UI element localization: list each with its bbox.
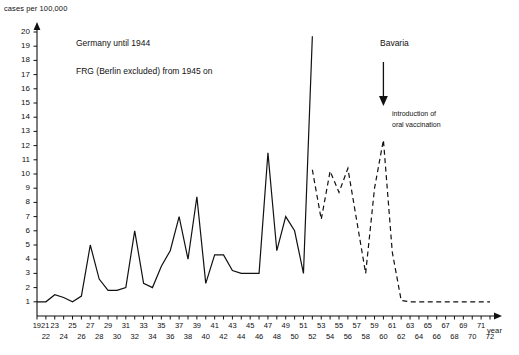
x-tick-label: 49 <box>278 321 294 330</box>
x-tick-label: 53 <box>313 321 329 330</box>
x-tick-label: 38 <box>180 332 196 341</box>
x-tick-label: 42 <box>216 332 232 341</box>
x-tick-label: 65 <box>420 321 436 330</box>
x-tick-label: 63 <box>402 321 418 330</box>
x-tick-label: 69 <box>455 321 471 330</box>
y-tick-label: 10 <box>16 169 30 178</box>
y-tick-label: 1 <box>16 297 30 306</box>
x-tick-label: 67 <box>438 321 454 330</box>
x-tick-label: 22 <box>38 332 54 341</box>
x-tick-label: 24 <box>56 332 72 341</box>
x-tick-label: 31 <box>118 321 134 330</box>
x-tick-label: 68 <box>446 332 462 341</box>
y-tick-label: 6 <box>16 226 30 235</box>
x-tick-label: 27 <box>82 321 98 330</box>
x-tick-label: 23 <box>47 321 63 330</box>
x-tick-label: 61 <box>384 321 400 330</box>
x-tick-label: 39 <box>189 321 205 330</box>
x-tick-label: 60 <box>375 332 391 341</box>
y-tick-label: 11 <box>16 155 30 164</box>
x-tick-label: 43 <box>224 321 240 330</box>
x-tick-label: 50 <box>287 332 303 341</box>
x-tick-label: 58 <box>358 332 374 341</box>
y-tick-label: 2 <box>16 283 30 292</box>
y-tick-label: 20 <box>16 27 30 36</box>
x-tick-label: 48 <box>269 332 285 341</box>
x-tick-label: 44 <box>233 332 249 341</box>
x-tick-label: 30 <box>109 332 125 341</box>
series-solid <box>37 36 312 302</box>
y-tick-label: 19 <box>16 41 30 50</box>
x-tick-label: 71 <box>473 321 489 330</box>
series-dashed <box>312 140 490 302</box>
y-tick-label: 18 <box>16 55 30 64</box>
x-tick-label: 45 <box>242 321 258 330</box>
vaccination-arrow <box>379 62 388 106</box>
x-tick-label: 29 <box>100 321 116 330</box>
x-tick-label: 51 <box>295 321 311 330</box>
x-tick-label: 25 <box>65 321 81 330</box>
x-tick-label: 55 <box>331 321 347 330</box>
y-tick-label: 14 <box>16 112 30 121</box>
x-tick-label: 34 <box>144 332 160 341</box>
x-tick-label: 66 <box>429 332 445 341</box>
y-tick-label: 9 <box>16 183 30 192</box>
x-tick-label: 32 <box>127 332 143 341</box>
y-tick-label: 4 <box>16 254 30 263</box>
y-axis-arrow <box>34 22 41 30</box>
x-tick-label: 37 <box>171 321 187 330</box>
x-tick-label: 57 <box>349 321 365 330</box>
x-tick-label: 64 <box>411 332 427 341</box>
y-tick-label: 16 <box>16 84 30 93</box>
y-tick-label: 12 <box>16 141 30 150</box>
y-tick-label: 13 <box>16 126 30 135</box>
x-tick-label: 47 <box>260 321 276 330</box>
chart-plot <box>0 0 519 355</box>
y-tick-label: 5 <box>16 240 30 249</box>
y-tick-label: 17 <box>16 70 30 79</box>
y-tick-label: 7 <box>16 212 30 221</box>
x-tick-label: 56 <box>340 332 356 341</box>
x-tick-label: 28 <box>91 332 107 341</box>
x-tick-label: 59 <box>367 321 383 330</box>
x-tick-label: 46 <box>251 332 267 341</box>
y-tick-label: 3 <box>16 268 30 277</box>
x-tick-label: 33 <box>136 321 152 330</box>
x-axis-arrow <box>494 313 502 320</box>
x-tick-label: 62 <box>393 332 409 341</box>
x-tick-label: 26 <box>73 332 89 341</box>
x-tick-label: 52 <box>304 332 320 341</box>
x-tick-label: 36 <box>162 332 178 341</box>
x-tick-label: 72 <box>482 332 498 341</box>
x-tick-label: 35 <box>153 321 169 330</box>
x-tick-label: 54 <box>322 332 338 341</box>
y-tick-label: 8 <box>16 197 30 206</box>
chart-root: cases per 100,000 year Germany until 194… <box>0 0 519 355</box>
x-tick-label: 70 <box>464 332 480 341</box>
x-tick-label: 41 <box>207 321 223 330</box>
y-tick-label: 15 <box>16 98 30 107</box>
x-tick-label: 40 <box>198 332 214 341</box>
